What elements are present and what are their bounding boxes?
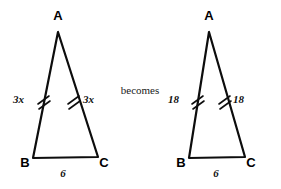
right-triangle-vertex-b-label: B — [176, 155, 185, 170]
left-triangle-group: A B C 3x 3x 6 — [12, 8, 109, 179]
right-triangle-right-leg-ticks — [219, 96, 231, 109]
triangles-diagram-canvas: A B C 3x 3x 6 becomes A B C — [0, 0, 281, 189]
right-triangle-vertex-c-label: C — [246, 155, 256, 170]
left-triangle-vertex-a-label: A — [53, 8, 63, 23]
left-triangle-vertex-b-label: B — [20, 155, 29, 170]
geometry-figure: A B C 3x 3x 6 becomes A B C — [0, 0, 281, 189]
right-triangle-left-leg-label: 18 — [168, 93, 180, 105]
left-triangle-right-leg-label: 3x — [82, 93, 95, 105]
right-triangle-right-leg-label: 18 — [233, 93, 245, 105]
connector-becomes-text: becomes — [121, 84, 159, 96]
right-triangle-group: A B C 18 18 6 — [168, 8, 256, 179]
right-triangle-vertex-a-label: A — [204, 8, 214, 23]
left-triangle-left-leg-label: 3x — [12, 93, 25, 105]
left-triangle-base-label: 6 — [60, 167, 66, 179]
right-triangle-base-label: 6 — [213, 167, 219, 179]
left-triangle-vertex-c-label: C — [99, 155, 109, 170]
